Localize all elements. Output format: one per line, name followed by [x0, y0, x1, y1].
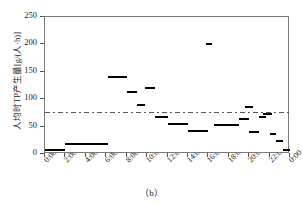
data-segment — [214, 124, 239, 126]
data-segment — [145, 87, 155, 89]
y-tick: 100 — [0, 98, 44, 99]
data-segment — [283, 149, 290, 151]
data-segment — [259, 116, 265, 118]
y-tick: 0 — [0, 153, 44, 154]
y-tick: 200 — [0, 43, 44, 44]
data-segment — [108, 76, 116, 78]
y-tick: 50 — [0, 126, 44, 127]
data-segment — [127, 91, 137, 93]
y-tick-label: 50 — [29, 120, 38, 130]
data-segment — [155, 116, 167, 118]
data-segment — [137, 104, 145, 106]
figure-caption: （b） — [0, 186, 303, 199]
data-segment — [65, 143, 108, 145]
data-segment — [168, 123, 188, 125]
y-tick: 150 — [0, 71, 44, 72]
data-segment — [116, 76, 126, 78]
data-segment — [206, 43, 212, 45]
data-segment — [270, 133, 276, 135]
chart-figure: 人均时TP产生量[g/(人·h)] 050100150200250 0:002:… — [0, 0, 303, 205]
data-segment — [249, 131, 259, 133]
y-tick-label: 200 — [24, 37, 37, 47]
data-segment — [188, 130, 208, 132]
data-segment — [239, 118, 249, 120]
y-tick-label: 0 — [33, 147, 37, 157]
reference-line — [45, 112, 290, 113]
y-tick-label: 250 — [24, 10, 37, 20]
plot-area — [44, 16, 289, 153]
y-tick-label: 150 — [24, 65, 37, 75]
y-tick: 250 — [0, 16, 44, 17]
data-segment — [245, 106, 253, 108]
data-segment — [263, 113, 271, 115]
y-axis-title: 人均时TP产生量[g/(人·h)] — [12, 6, 22, 156]
data-segment — [45, 149, 65, 151]
data-segment — [276, 140, 283, 142]
y-tick-label: 100 — [24, 92, 37, 102]
